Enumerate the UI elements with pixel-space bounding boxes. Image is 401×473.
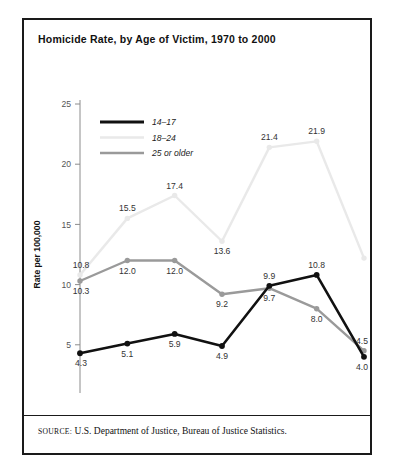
data-point <box>219 343 225 349</box>
data-point <box>125 216 130 221</box>
y-tick-label: 5 <box>66 340 71 350</box>
y-tick-label: 20 <box>61 159 71 169</box>
data-point <box>314 306 319 311</box>
data-point-label: 21.9 <box>308 126 325 136</box>
data-point <box>125 258 130 263</box>
figure-panel: Homicide Rate, by Age of Victim, 1970 to… <box>22 18 372 455</box>
data-point-label: 4.9 <box>216 351 228 361</box>
data-point-label: 8.0 <box>311 314 323 324</box>
data-point <box>77 272 82 277</box>
data-point <box>172 331 178 337</box>
data-point-label: 9.9 <box>263 271 275 281</box>
data-point-label: 9.7 <box>263 293 275 303</box>
legend-label: 25 or older <box>151 148 194 158</box>
data-point <box>314 139 319 144</box>
y-tick-label: 10 <box>61 280 71 290</box>
data-point-label: 17.4 <box>166 181 183 191</box>
data-point <box>267 145 272 150</box>
legend-label: 18–24 <box>152 133 176 143</box>
data-point <box>266 283 272 289</box>
data-point-label: 10.3 <box>73 286 90 296</box>
data-point <box>314 272 320 278</box>
homicide-rate-line-chart: 0510152025Rate per 100,00019701975198019… <box>24 48 370 393</box>
data-point <box>172 193 177 198</box>
data-point-label: 4.5 <box>356 336 368 346</box>
data-point-label: 21.4 <box>261 132 278 142</box>
source-divider <box>24 415 370 416</box>
data-point-label: 4.3 <box>75 358 87 368</box>
data-point <box>77 350 83 356</box>
y-tick-label: 15 <box>61 220 71 230</box>
data-point <box>219 239 224 244</box>
data-point <box>219 292 224 297</box>
y-tick-label: 25 <box>61 99 71 109</box>
data-point-label: 10.8 <box>73 260 90 270</box>
data-point-label: 15.5 <box>119 203 136 213</box>
data-point-label: 9.2 <box>216 299 228 309</box>
chart-plot-area: 0510152025Rate per 100,00019701975198019… <box>24 48 370 393</box>
page-title: Homicide Rate, by Age of Victim, 1970 to… <box>38 33 276 45</box>
data-point-label: 12.0 <box>166 266 183 276</box>
data-point-label: 5.1 <box>121 349 133 359</box>
data-point-label: 4.0 <box>356 362 368 372</box>
data-point <box>172 258 177 263</box>
data-point <box>361 354 367 360</box>
source-text: U.S. Department of Justice, Bureau of Ju… <box>75 426 287 436</box>
y-axis-title: Rate per 100,000 <box>32 220 42 288</box>
data-point <box>124 341 130 347</box>
data-point-label: 12.0 <box>119 266 136 276</box>
data-point-label: 5.9 <box>169 339 181 349</box>
source-note: SOURCE: U.S. Department of Justice, Bure… <box>38 426 287 436</box>
legend-label: 14–17 <box>152 117 177 127</box>
source-label: SOURCE: <box>38 427 72 436</box>
data-point <box>361 255 366 260</box>
data-point-label: 13.6 <box>214 246 231 256</box>
data-point <box>77 278 82 283</box>
data-point-label: 10.8 <box>308 260 325 270</box>
